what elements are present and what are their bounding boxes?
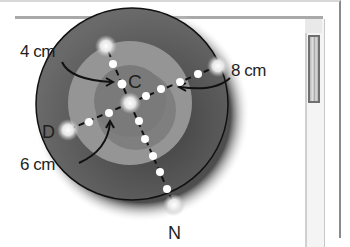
scrollbar-up-area[interactable]: [305, 19, 322, 33]
label-6cm: 6 cm: [20, 156, 55, 173]
label-8cm: 8 cm: [231, 62, 266, 79]
label-4cm: 4 cm: [20, 43, 55, 60]
scrollbar-thumb[interactable]: [308, 35, 320, 103]
label-center-c: C: [128, 72, 141, 91]
label-point-d: D: [42, 123, 55, 141]
label-point-n: N: [168, 224, 181, 242]
